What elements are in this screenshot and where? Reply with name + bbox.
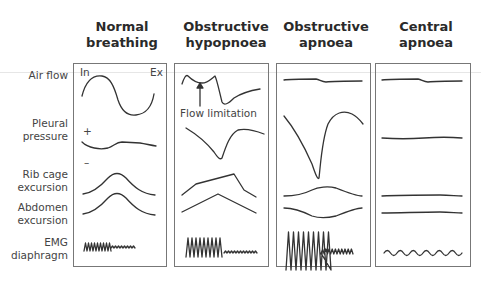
trace-central-apnoea-rib-cage xyxy=(382,195,462,196)
trace-central-apnoea-emg xyxy=(384,251,462,256)
trace-obstructive-apnoea-air-flow xyxy=(284,79,362,82)
trace-normal-air-flow xyxy=(82,76,154,115)
trace-obstructive-apnoea-emg xyxy=(286,232,353,270)
trace-normal-rib-cage xyxy=(83,174,155,196)
trace-normal-pleural-pressure xyxy=(82,142,156,149)
flow-limitation-arrowhead xyxy=(197,83,203,88)
trace-central-apnoea-air-flow xyxy=(382,79,462,82)
trace-obstructive-apnoea-abdomen xyxy=(284,208,362,218)
trace-obstructive-apnoea-pleural-pressure xyxy=(284,112,363,178)
trace-central-apnoea-pleural-pressure xyxy=(382,137,462,139)
trace-hypopnoea-pleural-pressure xyxy=(186,128,264,159)
trace-central-apnoea-abdomen xyxy=(382,212,462,213)
trace-hypopnoea-rib-cage xyxy=(182,174,256,197)
physiological-traces xyxy=(0,0,481,290)
trace-hypopnoea-emg xyxy=(186,238,257,257)
trace-normal-abdomen xyxy=(83,194,155,216)
trace-hypopnoea-air-flow xyxy=(182,75,260,104)
trace-obstructive-apnoea-rib-cage xyxy=(284,187,362,196)
trace-hypopnoea-abdomen xyxy=(182,194,256,213)
trace-normal-emg xyxy=(84,243,135,251)
